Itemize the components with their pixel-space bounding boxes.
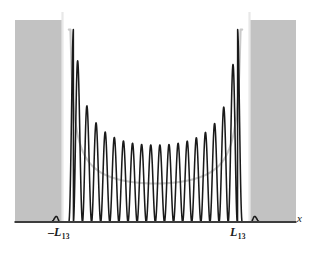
forbidden-regions: [15, 20, 296, 222]
forbidden-region-right: [250, 20, 296, 222]
right-turning-point-subscript: 13: [237, 232, 245, 241]
plot-canvas: [0, 0, 316, 256]
left-turning-point-subscript: 13: [61, 232, 69, 241]
forbidden-region-left: [15, 20, 62, 222]
tick-label-right-turning-point: L13: [230, 226, 246, 241]
quantum-probability-density-figure: x –L13 L13: [0, 0, 316, 256]
tick-label-left-turning-point: –L13: [48, 226, 70, 241]
x-axis-label: x: [297, 213, 302, 224]
